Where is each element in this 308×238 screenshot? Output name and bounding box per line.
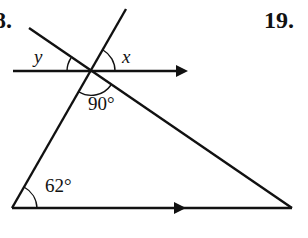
angle-62-arc (24, 187, 37, 208)
parallel-lines-figure (0, 0, 308, 238)
angle-y-label: y (34, 47, 42, 66)
geometry-diagram: 8. 19. y x 90° 62° (0, 0, 308, 238)
angle-y-arc (67, 58, 71, 71)
top-arrow-icon (176, 65, 188, 77)
angle-x-label: x (122, 47, 130, 66)
problem-number-left: 8. (0, 8, 12, 32)
angle-90-label: 90° (88, 94, 115, 113)
problem-number-right: 19. (264, 8, 294, 32)
angle-62-label: 62° (45, 176, 72, 195)
angle-x-arc (103, 50, 115, 71)
bottom-arrow-icon (174, 202, 186, 214)
